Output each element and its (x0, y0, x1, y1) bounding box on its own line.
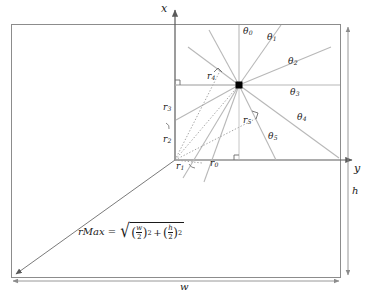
rmax-radical: √ ( w 2 ) 2 + ( h 2 ) 2 (119, 222, 184, 241)
term2-fraction: h 2 (168, 225, 173, 241)
r1-sub: 1 (181, 164, 185, 171)
r3-base: r (163, 102, 167, 112)
y-axis-label: y (354, 163, 360, 174)
radical-sign: √ (120, 222, 130, 241)
theta2-label: θ2 (288, 57, 298, 66)
radical-body: ( w 2 ) 2 + ( h 2 ) 2 (130, 222, 184, 241)
theta4-label: θ4 (297, 113, 307, 122)
theta2-base: θ (288, 56, 293, 66)
theta3-sub: 3 (296, 90, 300, 97)
term1-open-paren: ( (131, 226, 136, 240)
arc-near-r2 (166, 123, 169, 129)
theta4-sub: 4 (303, 115, 307, 122)
right-angle-x-axis (175, 80, 180, 85)
right-angle-y-axis (234, 155, 239, 160)
term1-fraction: w 2 (136, 225, 142, 241)
theta4-base: θ (297, 112, 302, 122)
rmax-formula: rMax = √ ( w 2 ) 2 + ( h 2 ) 2 (78, 222, 184, 241)
term2-denominator: 2 (168, 232, 173, 241)
rmax-formula-equals: = (108, 226, 116, 237)
r3-sub: 3 (168, 105, 172, 112)
r3-label: r3 (163, 103, 172, 112)
r4-sub: 4 (212, 74, 216, 81)
theta0-base: θ (243, 26, 248, 36)
theta1-sub: 1 (273, 35, 277, 42)
x-axis-label: x (161, 3, 167, 14)
r4-base: r (207, 71, 211, 81)
ray-lower-left-a (176, 85, 239, 120)
dotted-r4 (175, 69, 221, 160)
term1-numerator: w (136, 225, 142, 233)
theta1-base: θ (267, 32, 272, 42)
term2-exponent: 2 (178, 229, 182, 237)
theta3-base: θ (290, 87, 295, 97)
r2-sub: 2 (168, 137, 172, 144)
theta-rays (176, 25, 340, 182)
r4-label: r4 (207, 72, 216, 81)
theta2-sub: 2 (294, 59, 298, 66)
theta0-label: θ0 (243, 27, 253, 36)
geometry-figure: x y w h θ0 θ1 θ2 θ3 θ4 θ5 r0 r1 r2 r3 r4… (0, 0, 367, 298)
r5-base: r (243, 115, 247, 125)
diagram-canvas (0, 0, 367, 298)
rmax-formula-name: rMax (78, 226, 105, 237)
center-point-marker (236, 82, 243, 89)
theta1-label: θ1 (267, 33, 277, 42)
term2-numerator: h (168, 225, 173, 233)
rmax-arrow (16, 160, 175, 274)
theta5-base: θ (268, 131, 273, 141)
r2-label: r2 (163, 135, 172, 144)
r2-base: r (163, 134, 167, 144)
theta0-sub: 0 (249, 29, 253, 36)
r1-base: r (176, 161, 180, 171)
r0-base: r (210, 158, 214, 168)
width-dimension-label: w (180, 282, 189, 292)
theta5-label: θ5 (268, 132, 278, 141)
term2-open-paren: ( (163, 226, 168, 240)
formula-operator: + (152, 227, 163, 238)
r5-label: r5 (243, 116, 252, 125)
r0-label: r0 (210, 159, 219, 168)
r1-label: r1 (176, 162, 185, 171)
theta5-sub: 5 (274, 134, 278, 141)
ray-theta4 (239, 85, 339, 158)
r5-sub: 5 (248, 118, 252, 125)
theta3-label: θ3 (290, 88, 300, 97)
r0-sub: 0 (215, 161, 219, 168)
term1-denominator: 2 (136, 232, 142, 241)
height-dimension-label: h (352, 186, 358, 196)
